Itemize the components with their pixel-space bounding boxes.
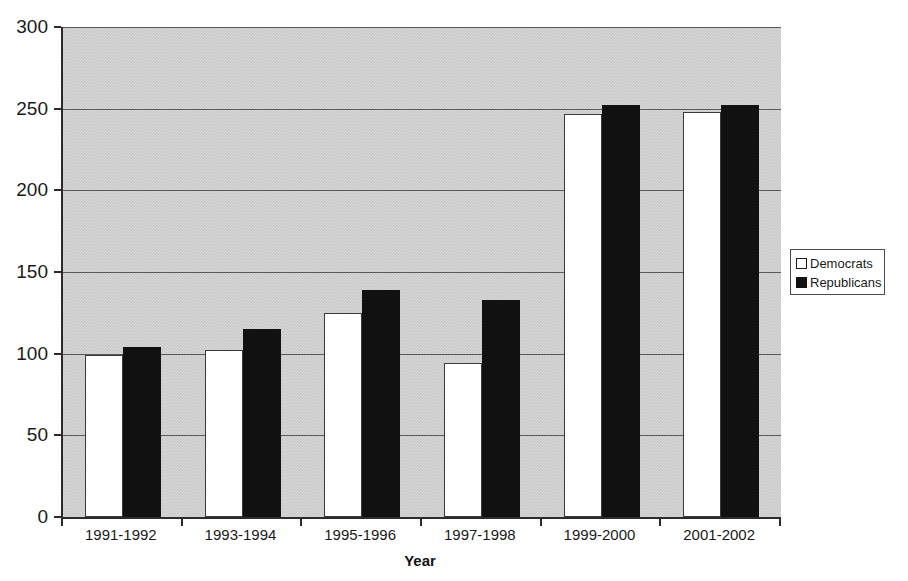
bar-democrats-1991-1992 bbox=[85, 355, 123, 517]
bar-republicans-1993-1994 bbox=[243, 329, 281, 517]
x-axis-tick-mark bbox=[300, 519, 302, 526]
legend-label-republicans: Republicans bbox=[810, 276, 882, 289]
x-axis-tick-mark bbox=[420, 519, 422, 526]
plot-inner bbox=[63, 27, 781, 517]
y-axis-tick-mark bbox=[54, 189, 61, 191]
legend-label-democrats: Democrats bbox=[810, 257, 873, 270]
y-axis-tick-mark bbox=[54, 353, 61, 355]
y-axis-tick-label: 100 bbox=[0, 344, 48, 363]
bar-republicans-2001-2002 bbox=[721, 105, 759, 517]
legend: Democrats Republicans bbox=[790, 249, 885, 295]
x-axis-tick-mark bbox=[540, 519, 542, 526]
y-axis-tick-label: 200 bbox=[0, 180, 48, 199]
bar-chart: 300250200150100500 1991-19921993-1994199… bbox=[0, 0, 908, 581]
y-axis-tick-label: 0 bbox=[0, 507, 48, 526]
x-axis-tick-mark bbox=[779, 519, 781, 526]
gridline bbox=[63, 190, 781, 191]
bar-republicans-1997-1998 bbox=[482, 300, 520, 517]
y-axis-tick-label: 300 bbox=[0, 17, 48, 36]
y-axis-tick-mark bbox=[54, 271, 61, 273]
y-axis-tick-label: 50 bbox=[0, 425, 48, 444]
gridline bbox=[63, 27, 781, 28]
gridline bbox=[63, 435, 781, 436]
y-axis-tick-mark bbox=[54, 108, 61, 110]
bar-democrats-1995-1996 bbox=[324, 313, 362, 517]
bar-republicans-1991-1992 bbox=[123, 347, 161, 517]
white-square-icon bbox=[796, 258, 807, 269]
x-axis-tick-label: 1995-1996 bbox=[300, 527, 420, 542]
x-axis-tick-label: 1991-1992 bbox=[61, 527, 181, 542]
plot-area bbox=[61, 27, 781, 519]
x-axis-tick-label: 1997-1998 bbox=[420, 527, 540, 542]
bar-republicans-1995-1996 bbox=[362, 290, 400, 517]
y-axis-tick-mark bbox=[54, 26, 61, 28]
gridline bbox=[63, 272, 781, 273]
y-axis-tick-mark bbox=[54, 434, 61, 436]
bar-republicans-1999-2000 bbox=[602, 105, 640, 517]
bar-democrats-1999-2000 bbox=[564, 114, 602, 517]
legend-item-republicans: Republicans bbox=[796, 273, 880, 292]
y-axis-tick-mark bbox=[54, 516, 61, 518]
x-axis-tick-mark bbox=[61, 519, 63, 526]
bar-democrats-2001-2002 bbox=[683, 112, 721, 517]
bar-democrats-1997-1998 bbox=[444, 363, 482, 517]
x-axis-tick-mark bbox=[659, 519, 661, 526]
gridline bbox=[63, 354, 781, 355]
y-axis-tick-label: 150 bbox=[0, 262, 48, 281]
x-axis-tick-label: 1993-1994 bbox=[181, 527, 301, 542]
black-square-icon bbox=[796, 277, 807, 288]
x-axis-tick-label: 2001-2002 bbox=[659, 527, 779, 542]
x-axis-title: Year bbox=[61, 552, 779, 569]
y-axis-tick-label: 250 bbox=[0, 99, 48, 118]
x-axis-tick-mark bbox=[181, 519, 183, 526]
x-axis-tick-label: 1999-2000 bbox=[540, 527, 660, 542]
legend-item-democrats: Democrats bbox=[796, 254, 880, 273]
bar-democrats-1993-1994 bbox=[205, 350, 243, 517]
gridline bbox=[63, 109, 781, 110]
